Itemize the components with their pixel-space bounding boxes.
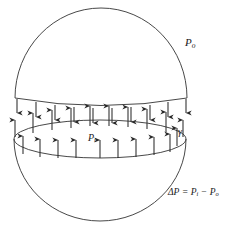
label-outside-pressure: Po (185, 37, 195, 49)
figure-canvas: Po Pi γ ΔP=Pi−Po (0, 0, 242, 229)
equation-equals: = (182, 187, 187, 197)
upper-hemisphere-dome-arc (15, 8, 187, 98)
equation-term2-sub: o (216, 190, 219, 197)
label-surface-tension: γ (178, 127, 182, 137)
inside-pressure-arrow-group-upper (15, 106, 183, 137)
gamma-symbol: γ (178, 126, 182, 137)
upper-hemisphere (15, 8, 187, 106)
label-pi-subscript: i (94, 136, 96, 143)
equation-term1-sub: i (197, 190, 199, 197)
label-po-symbol: P (185, 36, 192, 48)
upper-hemisphere-cut-edge (15, 98, 187, 106)
equation-lhs: ΔP (168, 187, 179, 197)
equation-minus: − (201, 187, 206, 197)
equation-pressure-difference: ΔP=Pi−Po (168, 188, 219, 198)
outside-pressure-arrow-group (17, 99, 186, 123)
label-po-subscript: o (192, 41, 196, 50)
label-inside-pressure: Pi (88, 133, 96, 144)
